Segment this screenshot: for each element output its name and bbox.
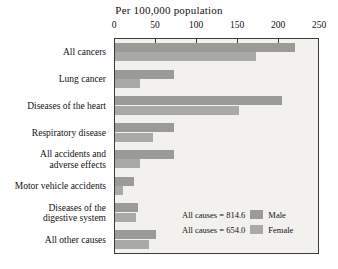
bar-female xyxy=(115,79,140,88)
bar-female xyxy=(115,106,239,115)
legend-series-label: Male xyxy=(268,210,285,220)
bar-female xyxy=(115,213,136,222)
x-axis-tick-labels: 050100150200250 xyxy=(0,20,338,34)
category-label: Diseases of the digestive system xyxy=(0,202,106,223)
x-tick-mark xyxy=(278,38,279,43)
legend-total-label: All causes = 654.0 xyxy=(182,225,245,235)
bar-male xyxy=(115,150,174,159)
bar-female xyxy=(115,159,140,168)
bar-male xyxy=(115,177,134,186)
category-axis-labels: All cancersLung cancerDiseases of the he… xyxy=(0,38,112,254)
legend-total-label: All causes = 814.6 xyxy=(182,210,245,220)
category-label: All cancers xyxy=(0,47,106,58)
legend-row: All causes = 814.6Male xyxy=(182,207,312,222)
chart-legend: All causes = 814.6MaleAll causes = 654.0… xyxy=(182,207,312,237)
category-label: Diseases of the heart xyxy=(0,101,106,112)
x-tick-label: 200 xyxy=(271,20,285,30)
chart-title: Per 100,000 population xyxy=(0,4,338,16)
x-tick-mark xyxy=(196,38,197,43)
bar-male xyxy=(115,230,156,239)
x-tick-mark xyxy=(155,38,156,43)
bar-female xyxy=(115,133,153,142)
x-tick-label: 150 xyxy=(230,20,244,30)
legend-series-label: Female xyxy=(268,225,293,235)
bar-male xyxy=(115,96,282,105)
legend-swatch-male xyxy=(250,210,263,219)
bar-chart: Per 100,000 population 050100150200250 A… xyxy=(0,0,338,269)
bar-male xyxy=(115,123,174,132)
bar-female xyxy=(115,52,256,61)
x-tick-mark xyxy=(237,38,238,43)
x-tick-label: 250 xyxy=(312,20,326,30)
bar-female xyxy=(115,186,123,195)
legend-row: All causes = 654.0Female xyxy=(182,222,312,237)
bar-male xyxy=(115,203,138,212)
legend-swatch-female xyxy=(250,225,263,234)
category-label: Respiratory disease xyxy=(0,127,106,138)
category-label: All accidents and adverse effects xyxy=(0,149,106,170)
bar-female xyxy=(115,240,149,249)
bar-male xyxy=(115,43,295,52)
bar-male xyxy=(115,70,174,79)
category-label: All other causes xyxy=(0,234,106,245)
x-tick-label: 50 xyxy=(150,20,160,30)
category-label: Lung cancer xyxy=(0,74,106,85)
x-tick-label: 100 xyxy=(189,20,203,30)
x-tick-label: 0 xyxy=(112,20,117,30)
category-label: Motor vehicle accidents xyxy=(0,181,106,192)
